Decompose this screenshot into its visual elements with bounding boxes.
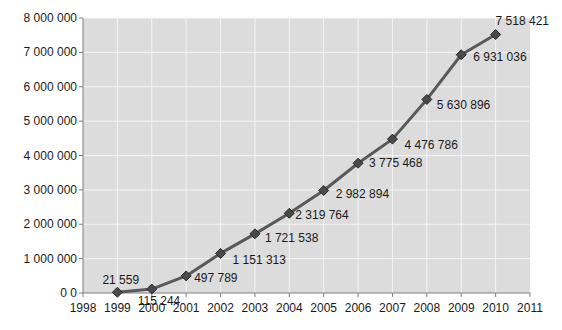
y-tick-label: 7 000 000 bbox=[24, 45, 78, 59]
data-label: 3 775 468 bbox=[369, 156, 423, 170]
data-label: 6 931 036 bbox=[473, 50, 527, 64]
y-tick-label: 4 000 000 bbox=[24, 149, 78, 163]
x-tick-label: 2006 bbox=[345, 301, 372, 315]
data-label: 1 721 538 bbox=[265, 231, 319, 245]
data-label: 1 151 313 bbox=[233, 253, 287, 267]
x-tick-label: 2009 bbox=[448, 301, 475, 315]
x-tick-label: 2007 bbox=[379, 301, 406, 315]
data-label: 2 319 764 bbox=[295, 208, 349, 222]
y-tick-label: 5 000 000 bbox=[24, 114, 78, 128]
y-tick-label: 6 000 000 bbox=[24, 80, 78, 94]
y-tick-label: 1 000 000 bbox=[24, 252, 78, 266]
x-tick-label: 2011 bbox=[517, 301, 543, 315]
y-tick-label: 8 000 000 bbox=[24, 11, 78, 25]
data-label: 21 559 bbox=[102, 273, 139, 287]
data-label: 2 982 894 bbox=[336, 187, 390, 201]
x-tick-label: 2010 bbox=[482, 301, 509, 315]
data-label: 4 476 786 bbox=[404, 138, 458, 152]
x-tick-label: 2003 bbox=[242, 301, 269, 315]
y-axis-tick-labels: 0 01 000 0002 000 0003 000 0004 000 0005… bbox=[24, 11, 78, 300]
y-tick-label: 0 0 bbox=[60, 286, 77, 300]
line-chart: 0 01 000 0002 000 0003 000 0004 000 0005… bbox=[0, 0, 562, 330]
y-tick-label: 2 000 000 bbox=[24, 217, 78, 231]
data-label: 497 789 bbox=[194, 271, 238, 285]
x-tick-label: 2002 bbox=[207, 301, 234, 315]
x-tick-label: 2004 bbox=[276, 301, 303, 315]
x-tick-label: 2005 bbox=[310, 301, 337, 315]
y-tick-label: 3 000 000 bbox=[24, 183, 78, 197]
x-tick-label: 1998 bbox=[70, 301, 97, 315]
x-tick-label: 2008 bbox=[413, 301, 440, 315]
data-label: 7 518 421 bbox=[496, 14, 550, 28]
data-label: 115 244 bbox=[138, 294, 181, 308]
data-label: 5 630 896 bbox=[437, 98, 491, 112]
x-tick-label: 1999 bbox=[104, 301, 131, 315]
